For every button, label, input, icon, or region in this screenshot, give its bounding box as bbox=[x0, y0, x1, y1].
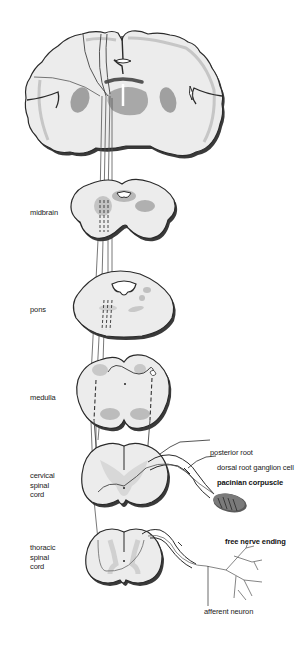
label-line: cord bbox=[30, 490, 55, 500]
label-line: spinal bbox=[30, 553, 55, 563]
label-free-nerve-ending: free nerve ending bbox=[225, 537, 286, 547]
pons-section bbox=[73, 271, 175, 340]
label-thoracic-spinal-cord: thoracic spinal cord bbox=[30, 543, 55, 572]
label-posterior-root: posterior root bbox=[210, 448, 253, 458]
sensory-pathway-diagram: midbrain pons medulla cervical spinal co… bbox=[0, 0, 302, 647]
label-medulla: medulla bbox=[30, 393, 56, 403]
label-midbrain: midbrain bbox=[30, 208, 58, 218]
label-dorsal-root-ganglion-cell: dorsal root ganglion cell bbox=[217, 463, 294, 473]
cerebrum-section bbox=[25, 31, 224, 159]
label-line: thoracic bbox=[30, 543, 55, 553]
medulla-section bbox=[77, 355, 172, 431]
label-line: spinal bbox=[30, 481, 55, 491]
label-pons: pons bbox=[30, 305, 46, 315]
midbrain-section bbox=[71, 179, 177, 241]
label-pacinian-corpuscle: pacinian corpuscle bbox=[217, 478, 283, 488]
label-cervical-spinal-cord: cervical spinal cord bbox=[30, 471, 55, 500]
label-afferent-neuron: afferent neuron bbox=[204, 607, 253, 617]
label-line: cord bbox=[30, 562, 55, 572]
label-line: cervical bbox=[30, 471, 55, 481]
